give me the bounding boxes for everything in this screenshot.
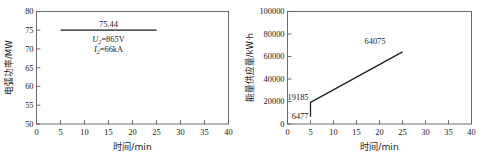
annotation-voltage: U2=865V (92, 35, 124, 45)
x-axis-title: 时间/min (113, 141, 152, 152)
x-tick-label: 35 (200, 128, 208, 137)
x-tick-label: 0 (285, 128, 289, 137)
energy-supply-data-line (311, 52, 403, 117)
x-tick-label: 25 (152, 128, 160, 137)
x-axis-ticks (37, 120, 229, 124)
y-axis-title: 电弧功率/MW (3, 40, 14, 95)
y-tick-label: 100000 (259, 7, 284, 16)
chart-panel-energy-supply: 0 20000 40000 60000 80000 100000 (243, 0, 485, 161)
y-tick-label: 80000 (264, 30, 285, 39)
x-tick-label: 10 (329, 128, 337, 137)
figure-row: 50 55 60 65 70 75 80 (0, 0, 485, 161)
y-axis-title: 能量供应量/kW·h (245, 33, 256, 103)
annotation-current: I2=66kA (93, 45, 123, 55)
arc-power-value-label: 75.44 (99, 20, 119, 29)
x-tick-label: 40 (467, 128, 475, 137)
x-tick-label: 40 (224, 128, 232, 137)
x-axis-ticks (288, 120, 472, 124)
x-tick-label: 20 (375, 128, 383, 137)
y-tick-label: 60000 (264, 52, 285, 61)
y-tick-label: 20000 (264, 97, 285, 106)
chart-panel-arc-power: 50 55 60 65 70 75 80 (0, 0, 243, 161)
y-tick-label: 55 (25, 101, 33, 110)
x-axis-title: 时间/min (360, 141, 399, 152)
plot-frame (288, 12, 472, 125)
x-tick-label: 10 (80, 128, 88, 137)
x-tick-label: 20 (128, 128, 136, 137)
y-axis-ticks (288, 12, 292, 125)
x-tick-label: 30 (176, 128, 184, 137)
x-tick-label: 30 (421, 128, 429, 137)
y-tick-label: 60 (25, 82, 33, 91)
x-tick-label: 15 (352, 128, 360, 137)
arc-power-chart-svg: 50 55 60 65 70 75 80 (0, 0, 243, 161)
y-tick-label: 50 (25, 120, 33, 129)
y-tick-label: 0 (280, 120, 284, 129)
energy-label-64075: 64075 (365, 37, 386, 46)
y-tick-label: 80 (25, 7, 33, 16)
y-tick-label: 65 (25, 64, 33, 73)
y-axis-tick-labels: 50 55 60 65 70 75 80 (25, 7, 33, 129)
y-axis-ticks (37, 12, 41, 125)
x-tick-label: 5 (308, 128, 312, 137)
energy-label-6477: 6477 (292, 112, 309, 121)
y-axis-tick-labels: 0 20000 40000 60000 80000 100000 (259, 7, 284, 129)
x-axis-tick-labels: 0 5 10 15 20 25 30 35 40 (285, 128, 475, 137)
energy-supply-chart-svg: 0 20000 40000 60000 80000 100000 (243, 0, 485, 161)
x-tick-label: 25 (398, 128, 406, 137)
x-axis-tick-labels: 0 5 10 15 20 25 30 35 40 (34, 128, 232, 137)
energy-label-19185: 19185 (288, 93, 309, 102)
y-tick-label: 70 (25, 45, 33, 54)
y-tick-label: 40000 (264, 75, 285, 84)
x-tick-label: 35 (444, 128, 452, 137)
x-tick-label: 5 (58, 128, 62, 137)
annotation-voltage-value: =865V (101, 35, 124, 44)
y-tick-label: 75 (25, 26, 33, 35)
x-tick-label: 0 (34, 128, 38, 137)
x-tick-label: 15 (104, 128, 112, 137)
plot-frame (37, 12, 229, 125)
annotation-current-value: =66kA (100, 45, 123, 54)
